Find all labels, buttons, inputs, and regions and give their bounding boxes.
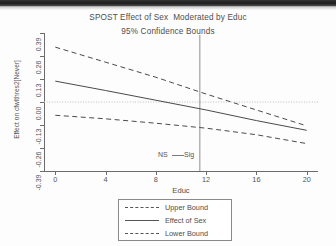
legend-key-dashed xyxy=(125,233,159,234)
legend-label: Upper Bound xyxy=(165,202,208,214)
ns-region-label: NS xyxy=(158,151,168,158)
ns-sig-connector xyxy=(172,155,184,156)
series-effect-of-sex xyxy=(55,81,306,130)
chart-canvas: SPOST Effect of Sex Moderated by Educ 95… xyxy=(0,0,336,246)
legend-key-solid xyxy=(125,220,159,221)
legend-item: Lower Bound xyxy=(119,228,231,240)
legend-item: Upper Bound xyxy=(119,202,231,214)
legend-label: Effect of Sex xyxy=(165,215,206,227)
series-upper-bound xyxy=(55,47,306,126)
legend-item: Effect of Sex xyxy=(119,215,231,227)
legend-label: Lower Bound xyxy=(165,228,208,240)
series-lower-bound xyxy=(55,115,306,143)
chart-legend: Upper BoundEffect of SexLower Bound xyxy=(118,199,232,241)
sig-region-label: Sig xyxy=(184,151,194,158)
legend-key-dashed xyxy=(125,207,159,208)
